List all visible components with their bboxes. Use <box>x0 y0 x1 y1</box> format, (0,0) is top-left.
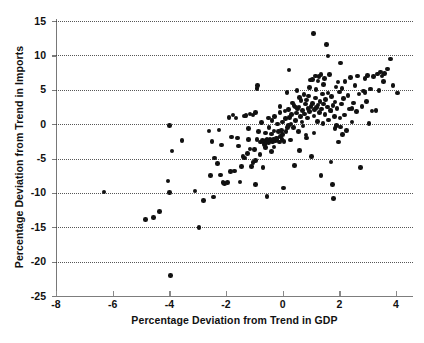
gridline-y--15 <box>56 227 413 228</box>
data-point <box>304 136 309 141</box>
y-tick-mark-0 <box>52 124 56 125</box>
data-point <box>339 102 344 107</box>
x-tick-mark--8 <box>56 291 57 296</box>
data-point <box>329 160 334 165</box>
data-point <box>236 144 241 149</box>
data-point <box>331 196 336 201</box>
gridline-y-15 <box>56 21 413 22</box>
data-point <box>275 122 280 127</box>
data-point <box>170 149 175 154</box>
x-tick-mark--4 <box>169 291 170 296</box>
data-point <box>334 85 339 90</box>
data-point <box>256 129 261 134</box>
data-point <box>321 82 326 87</box>
data-point <box>167 123 172 128</box>
data-point <box>180 138 185 143</box>
data-point <box>336 80 341 85</box>
y-tick-mark--25 <box>52 296 56 297</box>
data-point <box>382 71 387 76</box>
x-tick-label-4: 4 <box>381 298 411 310</box>
data-point <box>333 100 338 105</box>
data-point <box>391 83 396 88</box>
data-point <box>201 198 206 203</box>
data-point <box>143 217 148 222</box>
data-point <box>338 116 343 121</box>
data-point <box>378 70 383 75</box>
data-point <box>239 164 244 169</box>
data-point <box>288 138 293 143</box>
data-point <box>355 74 360 79</box>
data-point <box>166 179 171 184</box>
data-point <box>272 114 277 119</box>
x-tick-label--4: -4 <box>154 298 184 310</box>
data-point <box>229 135 234 140</box>
data-point <box>365 73 370 78</box>
data-point <box>295 88 300 93</box>
data-point <box>326 54 331 59</box>
data-point <box>285 90 290 95</box>
data-point <box>313 74 318 79</box>
y-tick-label-15: 15 <box>16 15 46 27</box>
data-point <box>358 165 363 170</box>
data-point <box>263 131 268 136</box>
data-point <box>363 90 368 95</box>
data-point <box>211 195 216 200</box>
data-point <box>252 147 257 152</box>
x-axis-title: Percentage Deviation from Trend in GDP <box>56 314 413 326</box>
data-point <box>329 94 334 99</box>
data-point <box>235 136 240 141</box>
data-point <box>348 75 353 80</box>
data-point <box>350 106 355 111</box>
data-point <box>332 114 337 119</box>
data-point <box>343 79 348 84</box>
data-point <box>326 118 331 123</box>
data-point <box>269 149 274 154</box>
y-tick-label--20: -20 <box>16 255 46 267</box>
data-point <box>278 110 283 115</box>
gridline-y--20 <box>56 262 413 263</box>
data-point <box>210 139 215 144</box>
data-point <box>323 112 328 117</box>
data-point <box>284 129 289 134</box>
data-point <box>340 132 345 137</box>
data-point <box>253 110 258 115</box>
data-point <box>246 137 251 142</box>
data-point <box>327 72 332 77</box>
gridline-y--5 <box>56 159 413 160</box>
gridline-y-10 <box>56 55 413 56</box>
x-tick-label--6: -6 <box>98 298 128 310</box>
data-point <box>212 156 217 161</box>
data-point <box>232 169 237 174</box>
data-point <box>381 79 386 84</box>
data-point <box>249 164 254 169</box>
data-point <box>259 120 264 125</box>
data-point <box>311 31 316 36</box>
data-point <box>251 160 256 165</box>
data-point <box>151 215 156 220</box>
data-point <box>312 131 317 136</box>
data-point <box>321 121 326 126</box>
data-point <box>263 145 268 150</box>
data-point <box>258 152 263 157</box>
data-point <box>314 87 319 92</box>
y-tick-mark--10 <box>52 193 56 194</box>
y-tick-label--5: -5 <box>16 152 46 164</box>
data-point <box>360 104 365 109</box>
data-point <box>168 273 173 278</box>
data-point <box>301 124 306 129</box>
y-tick-mark-15 <box>52 21 56 22</box>
data-point <box>351 101 356 106</box>
x-tick-label--8: -8 <box>41 298 71 310</box>
data-point <box>197 225 202 230</box>
x-tick-mark-4 <box>396 291 397 296</box>
data-point <box>307 85 312 90</box>
gridline-y-0 <box>56 124 413 125</box>
data-point <box>265 194 270 199</box>
data-point <box>322 76 327 81</box>
data-point <box>341 96 346 101</box>
data-point <box>255 83 260 88</box>
data-point <box>227 115 232 120</box>
data-point <box>193 189 198 194</box>
data-point <box>292 163 297 168</box>
data-point <box>338 61 343 66</box>
